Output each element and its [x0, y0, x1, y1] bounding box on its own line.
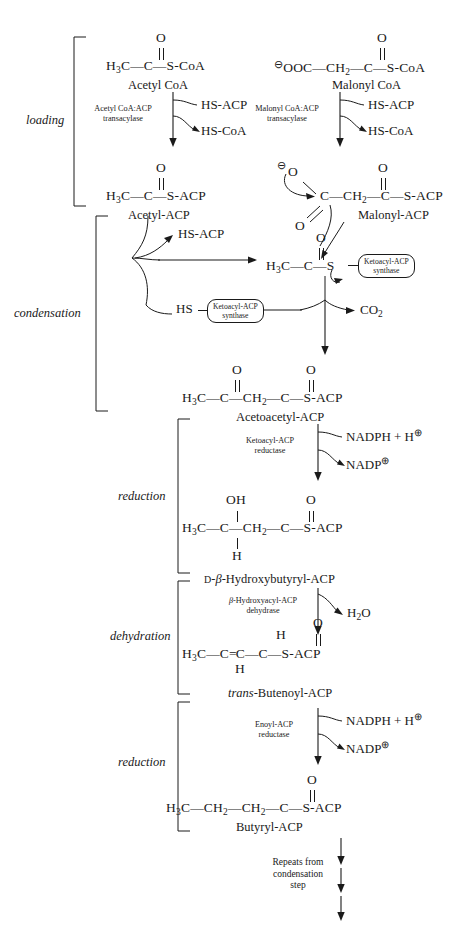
repeat-arrows — [0, 0, 463, 933]
repeat-note: Repeats from condensation step — [262, 857, 334, 892]
